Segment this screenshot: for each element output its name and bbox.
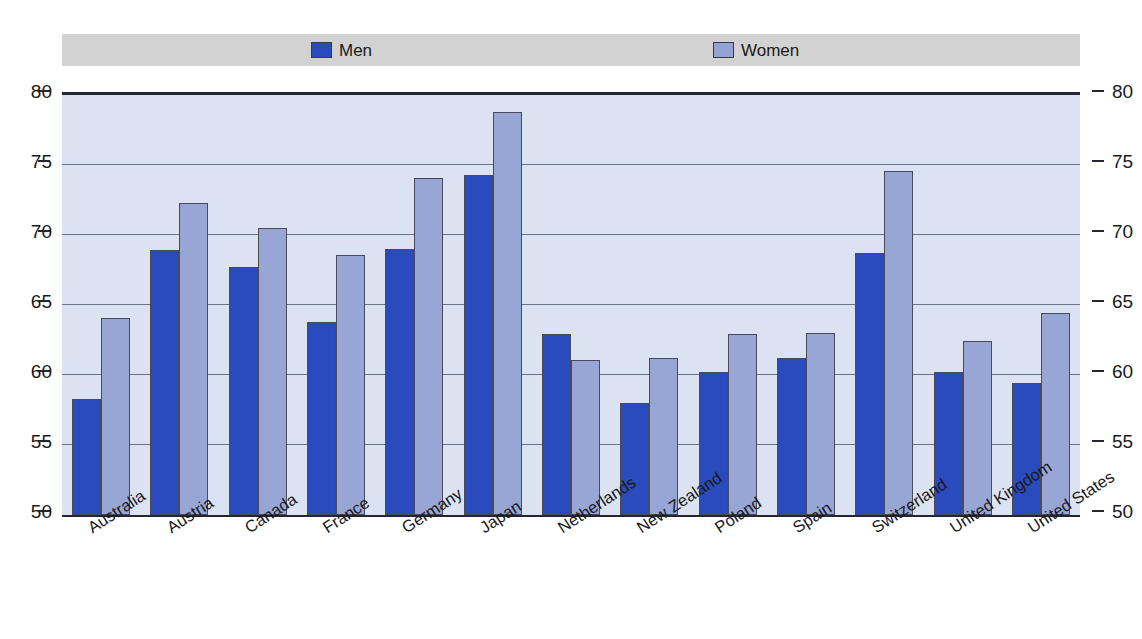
bar-group (532, 95, 610, 515)
bar-women (728, 334, 757, 515)
y-axis-tick-mark (38, 370, 50, 372)
y-axis-tick-mark (1092, 90, 1104, 92)
chart-legend: Men Women (62, 34, 1080, 66)
y-axis-tick-mark (1092, 440, 1104, 442)
bar-women (258, 228, 287, 515)
bar-group (1002, 95, 1080, 515)
bar-women (493, 112, 522, 515)
legend-swatch-women-icon (713, 42, 734, 58)
y-axis-right: 50556065707580 (1090, 92, 1142, 512)
y-axis-tick-mark (1092, 300, 1104, 302)
bar-women (884, 171, 913, 515)
bar-women (963, 341, 992, 515)
bar-men (229, 267, 258, 515)
bar-group (923, 95, 1001, 515)
y-axis-tick-mark (38, 300, 50, 302)
bar-men (72, 399, 101, 515)
y-axis-tick-mark (38, 90, 50, 92)
y-axis-tick-mark (38, 160, 50, 162)
bar-group (845, 95, 923, 515)
bar-men (855, 253, 884, 515)
bar-men (464, 175, 493, 515)
y-axis-tick-mark (1092, 230, 1104, 232)
legend-label-women: Women (741, 42, 799, 59)
y-axis-tick-mark (38, 230, 50, 232)
bar-group (610, 95, 688, 515)
bar-women (1041, 313, 1070, 515)
bar-men (620, 403, 649, 515)
bar-group (219, 95, 297, 515)
bar-women (101, 318, 130, 515)
x-axis-category-labels: AustraliaAustriaCanadaFranceGermanyJapan… (62, 516, 1080, 639)
y-axis-tick-mark (1092, 160, 1104, 162)
y-axis-tick-mark (38, 510, 50, 512)
bar-women (414, 178, 443, 515)
bar-women (571, 360, 600, 515)
bar-women (179, 203, 208, 515)
bar-group (62, 95, 140, 515)
bar-women (649, 358, 678, 515)
bar-men (307, 322, 336, 515)
y-axis-tick-mark (38, 440, 50, 442)
legend-entry-women: Women (713, 42, 799, 59)
bar-men (542, 334, 571, 515)
bar-men (150, 250, 179, 515)
bar-group (767, 95, 845, 515)
bar-men (385, 249, 414, 515)
bar-group (297, 95, 375, 515)
y-axis-left: 50556065707580 (0, 92, 52, 512)
y-axis-tick-mark (1092, 370, 1104, 372)
chart-bars (62, 95, 1080, 515)
legend-entry-men: Men (311, 42, 372, 59)
bar-group (140, 95, 218, 515)
chart-plot-area (62, 92, 1080, 517)
bar-group (375, 95, 453, 515)
y-axis-tick-mark (1092, 510, 1104, 512)
bar-women (806, 333, 835, 515)
bar-group (689, 95, 767, 515)
bar-men (777, 358, 806, 515)
bar-women (336, 255, 365, 515)
legend-swatch-men-icon (311, 42, 332, 58)
bar-group (454, 95, 532, 515)
legend-label-men: Men (339, 42, 372, 59)
